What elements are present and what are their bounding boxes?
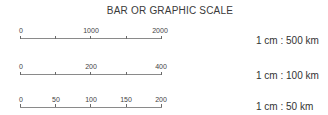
tick	[55, 36, 56, 39]
scale-line	[20, 38, 162, 39]
tick-label: 200	[85, 63, 97, 70]
tick	[55, 72, 56, 75]
tick	[20, 72, 21, 75]
scale-ratio: 1 cm : 100 km	[256, 70, 319, 81]
scale-line	[20, 107, 162, 108]
tick	[90, 72, 91, 75]
tick-label: 200	[155, 96, 167, 103]
tick	[90, 36, 91, 39]
scale-ratio: 1 cm : 500 km	[256, 35, 319, 46]
tick	[90, 104, 91, 107]
tick	[161, 36, 162, 39]
tick-label: 50	[52, 96, 60, 103]
tick-label: 100	[85, 96, 97, 103]
tick	[161, 72, 162, 75]
tick	[126, 104, 127, 107]
scale-ratio: 1 cm : 50 km	[256, 101, 313, 112]
tick-label: 400	[155, 63, 167, 70]
tick-label: 0	[19, 96, 23, 103]
scale-line	[20, 74, 162, 75]
tick-label: 1000	[83, 27, 99, 34]
tick	[55, 104, 56, 107]
tick	[161, 104, 162, 107]
diagram-title: BAR OR GRAPHIC SCALE	[0, 5, 328, 16]
tick-label: 0	[19, 63, 23, 70]
tick	[126, 36, 127, 39]
tick	[20, 104, 21, 107]
tick	[20, 36, 21, 39]
tick-label: 2000	[152, 27, 168, 34]
tick-label: 150	[120, 96, 132, 103]
tick-label: 0	[19, 27, 23, 34]
tick	[126, 72, 127, 75]
